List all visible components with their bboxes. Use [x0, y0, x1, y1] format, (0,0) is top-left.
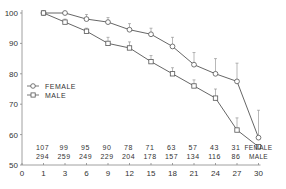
n-at-risk-female: 107 — [36, 144, 49, 151]
data-point-square — [170, 72, 174, 76]
n-at-risk-male: 249 — [79, 153, 92, 160]
square-marker-icon — [31, 93, 35, 97]
y-tick-label: 60 — [9, 131, 18, 140]
data-point-square — [41, 11, 45, 15]
series-female — [41, 11, 261, 140]
n-at-risk-female: 43 — [210, 144, 219, 151]
x-tick-label: 6 — [84, 169, 89, 178]
y-tick-label: 100 — [5, 9, 19, 18]
y-tick-label: 90 — [9, 39, 18, 48]
y-tick-label: 80 — [9, 70, 18, 79]
n-at-risk-female: 90 — [103, 144, 112, 151]
data-point-square — [149, 59, 153, 63]
n-at-risk-row-label: FEMALE — [245, 144, 273, 151]
n-at-risk-male: 229 — [100, 153, 113, 160]
x-tick-label: 1 — [41, 169, 46, 178]
data-point-circle — [213, 71, 218, 76]
data-point-square — [192, 84, 196, 88]
data-point-circle — [235, 79, 240, 84]
x-tick-label: 9 — [106, 169, 111, 178]
n-at-risk-female: 71 — [146, 144, 155, 151]
data-point-circle — [106, 20, 111, 25]
x-tick-label: 30 — [254, 169, 263, 178]
n-at-risk-male: 259 — [57, 153, 70, 160]
n-at-risk-male: 204 — [122, 153, 135, 160]
n-at-risk-female: 99 — [60, 144, 69, 151]
n-at-risk-female: 78 — [124, 144, 133, 151]
data-point-square — [106, 41, 110, 45]
n-at-risk-male: 157 — [165, 153, 178, 160]
n-at-risk-male: 294 — [36, 153, 49, 160]
y-axis-ticks: 5060708090100 — [5, 9, 22, 170]
legend-label: FEMALE — [45, 83, 76, 90]
n-at-risk-female: 95 — [81, 144, 90, 151]
n-at-risk-male: 116 — [208, 153, 221, 160]
x-tick-label: 3 — [63, 169, 68, 178]
series-lines — [41, 11, 261, 149]
data-point-square — [235, 128, 239, 132]
x-tick-label: 24 — [211, 169, 220, 178]
data-point-square — [84, 29, 88, 33]
n-at-risk-female: 57 — [189, 144, 198, 151]
legend-item-female: FEMALE — [27, 83, 76, 90]
data-point-square — [63, 20, 67, 24]
data-point-circle — [192, 62, 197, 67]
y-tick-label: 50 — [9, 161, 18, 170]
legend-item-male: MALE — [27, 92, 66, 99]
n-at-risk-male: 178 — [143, 153, 156, 160]
data-point-square — [213, 96, 217, 100]
n-at-risk-male: 86 — [232, 153, 241, 160]
data-point-circle — [63, 11, 68, 16]
n-at-risk-male: 134 — [186, 153, 199, 160]
data-point-circle — [149, 32, 154, 37]
data-point-circle — [127, 27, 132, 32]
x-tick-label: 12 — [125, 169, 134, 178]
y-tick-label: 70 — [9, 100, 18, 109]
x-tick-label: 18 — [168, 169, 177, 178]
legend-label: MALE — [45, 92, 66, 99]
data-point-circle — [170, 44, 175, 49]
n-at-risk-female: 31 — [232, 144, 241, 151]
n-at-risk-female: 63 — [167, 144, 176, 151]
data-point-square — [127, 46, 131, 50]
x-tick-label: 27 — [233, 169, 242, 178]
x-tick-label: 21 — [190, 169, 199, 178]
x-tick-label: 0 — [20, 169, 25, 178]
circle-marker-icon — [31, 84, 36, 89]
data-point-circle — [256, 135, 261, 140]
legend: FEMALEMALE — [27, 83, 76, 99]
survival-line-chart: 5060708090100 0136912151821242730 107999… — [0, 0, 286, 189]
n-at-risk-row-label: MALE — [249, 153, 268, 160]
numbers-at-risk: 107999590787163574331FEMALE2942592492292… — [36, 144, 273, 160]
data-point-circle — [84, 17, 89, 22]
x-tick-label: 15 — [147, 169, 156, 178]
